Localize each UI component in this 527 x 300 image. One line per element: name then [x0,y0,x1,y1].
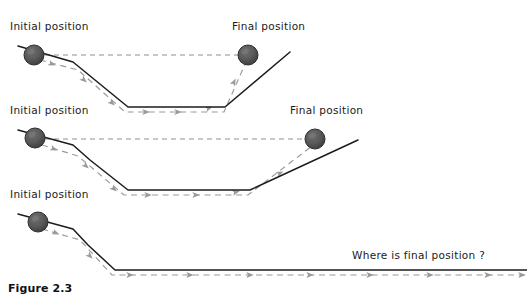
final-position-label: Final position [290,104,363,116]
trajectory-arrowhead [85,251,94,260]
panels-group [18,45,527,278]
track-surface [18,214,527,270]
initial-ball [25,128,45,148]
trajectory-arrowhead [366,272,373,278]
initial-position-label: Initial position [10,104,89,116]
final-position-question-label: Where is final position ? [352,249,485,261]
final-ball [305,129,325,149]
final-position-label: Final position [232,20,305,32]
figure-container: Initial positionFinal positionInitial po… [0,0,527,300]
initial-ball [24,45,44,65]
initial-position-label: Initial position [10,188,89,200]
trajectory-arrowhead [52,229,61,237]
trajectory-arrowhead [126,272,133,278]
galileo-inclined-plane-diagram: Initial positionFinal positionInitial po… [0,0,527,300]
initial-ball [28,212,48,232]
trajectory-arrowhead [306,272,313,278]
figure-caption: Figure 2.3 [8,282,72,295]
trajectory-arrowhead [192,192,199,198]
trajectory-arrowhead [484,272,491,278]
final-ball [238,45,258,65]
trajectory-arrowhead [50,145,59,153]
panel-flat-track [18,212,527,278]
trajectory-arrowhead [79,75,88,84]
trajectory-arrowhead [205,104,214,112]
initial-position-label: Initial position [10,20,89,32]
